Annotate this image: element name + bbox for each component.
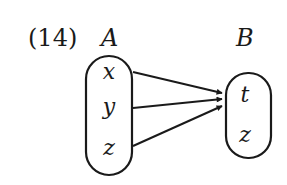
- arrow-z-to-t: [133, 106, 222, 146]
- set-a-element: x: [103, 59, 116, 84]
- set-a-element: y: [102, 94, 116, 119]
- set-b-label: B: [235, 24, 254, 52]
- mapping-diagram: (14) A B x y z t z: [0, 0, 287, 185]
- arrow-x-to-t: [133, 72, 222, 93]
- arrow-y-to-t: [133, 99, 222, 108]
- set-b-element: z: [238, 122, 251, 147]
- set-b-element: t: [241, 82, 250, 107]
- problem-number: (14): [28, 24, 77, 52]
- set-a-label: A: [99, 24, 118, 52]
- set-a-element: z: [102, 135, 115, 160]
